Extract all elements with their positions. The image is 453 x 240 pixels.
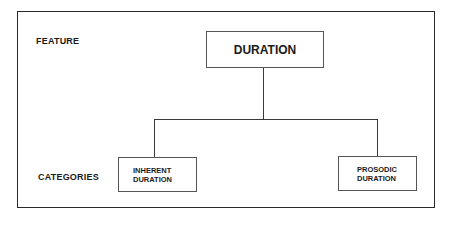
- level-label-categories: CATEGORIES: [38, 172, 99, 182]
- level-label-feature: FEATURE: [36, 36, 79, 46]
- child-node-label-line2: DURATION: [133, 175, 172, 184]
- connector-root-down: [263, 68, 264, 119]
- child-node-label-line1: PROSODIC: [357, 165, 397, 174]
- child-node-label-line1: INHERENT: [133, 166, 171, 175]
- child-node-prosodic-duration: PROSODIC DURATION: [338, 156, 417, 191]
- root-node-duration: DURATION: [206, 31, 324, 68]
- connector-horizontal: [154, 119, 378, 120]
- child-node-label-line2: DURATION: [357, 174, 396, 183]
- root-node-label: DURATION: [234, 43, 296, 57]
- connector-left-down: [154, 119, 155, 157]
- connector-right-down: [377, 119, 378, 156]
- child-node-inherent-duration: INHERENT DURATION: [118, 157, 197, 192]
